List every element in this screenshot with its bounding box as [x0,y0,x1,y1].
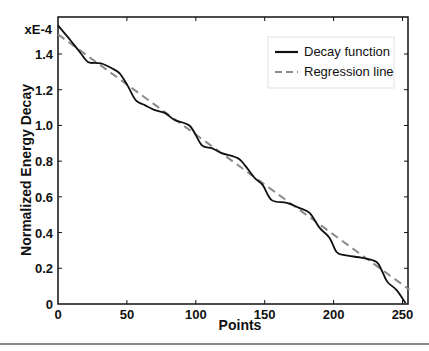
y-tick-label: 1.4 [35,47,54,62]
y-tick-label: 0.4 [35,226,54,241]
y-tick-label: 0.6 [35,190,53,205]
y-tick-label: 1.2 [35,83,53,98]
y-tick-label: 0.2 [35,261,53,276]
legend-regression-label: Regression line [304,64,394,79]
bottom-divider [0,343,429,345]
x-tick-label: 250 [392,307,414,322]
y-tick-label: 0.8 [35,154,53,169]
x-tick-label: 50 [120,307,134,322]
chart: 050100150200250 00.20.40.60.81.01.21.4 x… [0,0,429,351]
y-multiplier-label: xE-4 [25,22,53,37]
y-tick-label: 1.0 [35,118,53,133]
x-tick-label: 100 [185,307,207,322]
y-tick-label: 0 [46,297,53,312]
x-tick-label: 200 [323,307,345,322]
legend: Decay function Regression line [268,37,394,88]
legend-decay-label: Decay function [304,44,390,59]
x-tick-label: 0 [54,307,61,322]
y-axis-title: Normalized Energy Decay [18,84,34,256]
x-axis-title: Points [219,317,262,333]
